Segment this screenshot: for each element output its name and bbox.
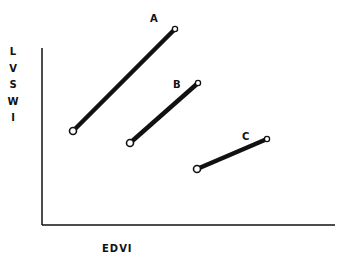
line-group: ABC xyxy=(70,13,270,173)
line-label: A xyxy=(150,13,158,24)
line-label: B xyxy=(173,79,181,90)
end-point-marker xyxy=(195,80,200,85)
start-point-marker xyxy=(70,128,77,135)
diagram-canvas: ABC xyxy=(0,0,351,269)
end-point-marker xyxy=(264,136,269,141)
line-label: C xyxy=(242,131,249,142)
start-point-marker xyxy=(127,140,134,147)
start-point-marker xyxy=(194,166,201,173)
line-c xyxy=(197,139,267,169)
end-point-marker xyxy=(172,26,177,31)
line-b xyxy=(130,83,198,143)
